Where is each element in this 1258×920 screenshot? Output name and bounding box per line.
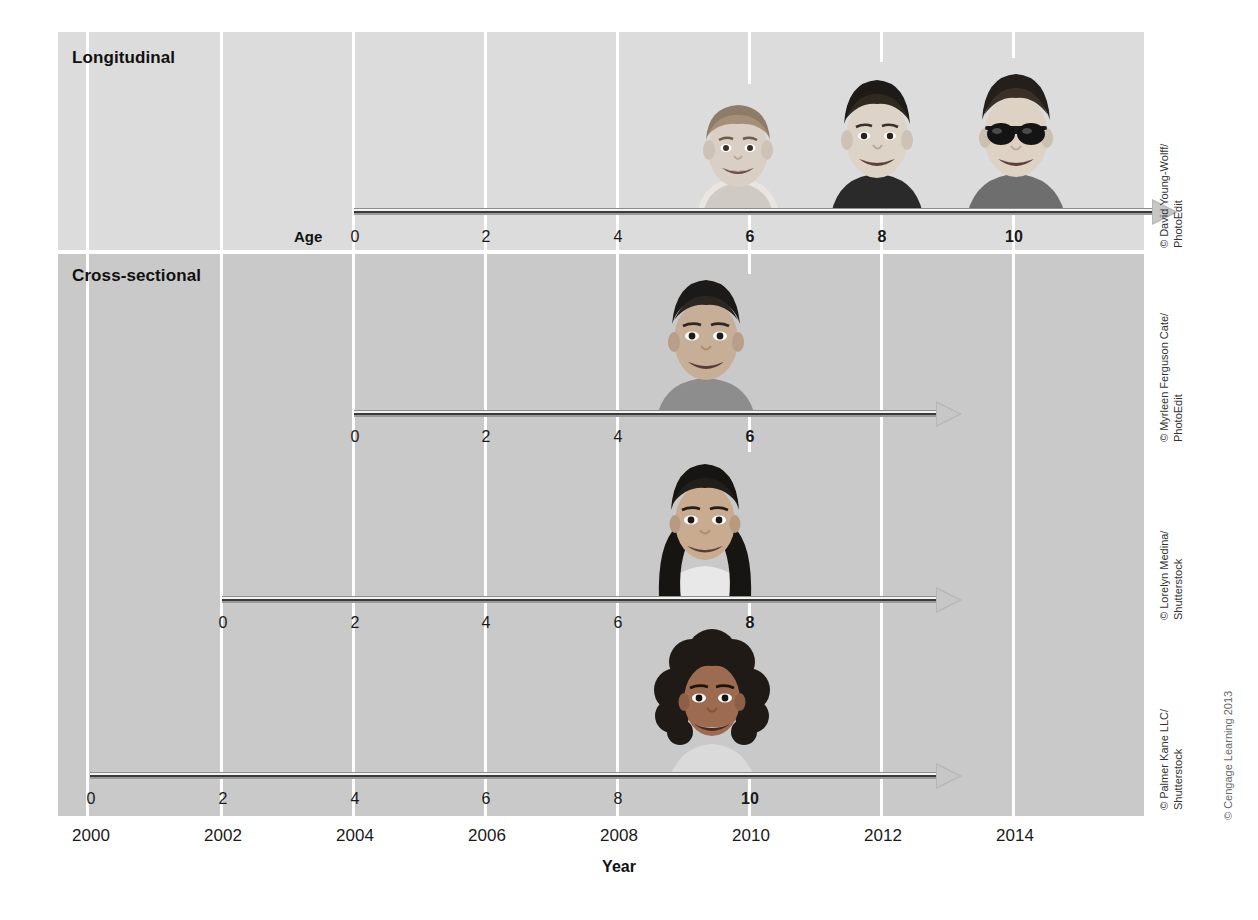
timeline-bar bbox=[354, 208, 1160, 215]
timeline-longitudinal bbox=[354, 204, 1178, 220]
gridline bbox=[1012, 254, 1015, 816]
cohort2002-tick-4: 4 bbox=[482, 614, 491, 632]
panel-longitudinal: Longitudinal bbox=[58, 32, 1146, 250]
cohort2000-tick-0: 0 bbox=[87, 790, 96, 808]
age-tick-4: 4 bbox=[614, 228, 623, 246]
credit-cohort-2002-line2: Shutterstock bbox=[1172, 559, 1185, 620]
cohort2002-tick-6: 6 bbox=[614, 614, 623, 632]
photo-boy-cohort-2004 bbox=[646, 274, 766, 412]
photo-girl-cohort-2000 bbox=[646, 628, 778, 776]
cohort2004-tick-2: 2 bbox=[482, 428, 491, 446]
credit-cohort-2002-line1: © Lorelyn Medina/ bbox=[1158, 531, 1171, 620]
gridline bbox=[616, 254, 619, 816]
timeline-cohort-2000 bbox=[90, 768, 962, 784]
year-tick-2014: 2014 bbox=[996, 826, 1034, 846]
photo-boy-age-8 bbox=[825, 62, 929, 214]
age-tick-6: 6 bbox=[746, 228, 755, 246]
gridline bbox=[1144, 254, 1147, 816]
panel-title-longitudinal: Longitudinal bbox=[72, 48, 175, 68]
cohort2000-tick-8: 8 bbox=[614, 790, 623, 808]
year-tick-2008: 2008 bbox=[600, 826, 638, 846]
timeline-arrowhead bbox=[936, 587, 962, 613]
timeline-bar bbox=[354, 410, 944, 417]
gridline bbox=[880, 254, 883, 816]
year-tick-2006: 2006 bbox=[468, 826, 506, 846]
credit-cohort-2004-line1: © Myrleen Ferguson Cate/ bbox=[1158, 313, 1171, 442]
cohort2004-tick-4: 4 bbox=[614, 428, 623, 446]
year-tick-2010: 2010 bbox=[732, 826, 770, 846]
gridline bbox=[484, 254, 487, 816]
age-tick-2: 2 bbox=[482, 228, 491, 246]
cohort2000-tick-2: 2 bbox=[219, 790, 228, 808]
credit-cohort-2004-line2: PhotoEdit bbox=[1172, 394, 1185, 442]
gridline bbox=[220, 254, 223, 816]
credit-longitudinal-line2: PhotoEdit bbox=[1172, 200, 1185, 248]
age-tick-8: 8 bbox=[878, 228, 887, 246]
timeline-arrowhead bbox=[936, 763, 962, 789]
cohort2002-tick-2: 2 bbox=[351, 614, 360, 632]
axis-name-age: Age bbox=[294, 228, 322, 245]
cohort2000-tick-6: 6 bbox=[482, 790, 491, 808]
timeline-cohort-2004 bbox=[354, 406, 962, 422]
photo-girl-cohort-2002 bbox=[641, 452, 769, 600]
timeline-arrowhead bbox=[936, 401, 962, 427]
cohort2002-tick-0: 0 bbox=[219, 614, 228, 632]
year-tick-2000: 2000 bbox=[72, 826, 110, 846]
figure-longitudinal-vs-cross-sectional: Longitudinal bbox=[0, 0, 1258, 920]
year-tick-2004: 2004 bbox=[336, 826, 374, 846]
gridline bbox=[86, 254, 89, 816]
photo-boy-age-6 bbox=[689, 84, 787, 214]
timeline-bar bbox=[222, 596, 944, 603]
cohort2000-tick-4: 4 bbox=[351, 790, 360, 808]
cohort2004-tick-0: 0 bbox=[351, 428, 360, 446]
year-tick-2002: 2002 bbox=[204, 826, 242, 846]
credit-cohort-2000-line2: Shutterstock bbox=[1172, 749, 1185, 810]
age-tick-10: 10 bbox=[1005, 228, 1023, 246]
timeline-cohort-2002 bbox=[222, 592, 962, 608]
axis-label-year: Year bbox=[602, 858, 636, 876]
credit-cohort-2000-line1: © Palmer Kane LLC/ bbox=[1158, 709, 1171, 810]
gridline bbox=[220, 32, 223, 250]
year-tick-2012: 2012 bbox=[864, 826, 902, 846]
cohort2004-tick-6: 6 bbox=[746, 428, 755, 446]
timeline-bar bbox=[90, 772, 944, 779]
age-tick-0: 0 bbox=[351, 228, 360, 246]
cohort2000-tick-10: 10 bbox=[741, 790, 759, 808]
panel-title-cross-sectional: Cross-sectional bbox=[72, 266, 201, 286]
credit-publisher: © Cengage Learning 2013 bbox=[1222, 691, 1235, 820]
year-axis: 2000 2002 2004 2006 2008 2010 2012 2014 … bbox=[0, 826, 1258, 896]
gridline bbox=[352, 254, 355, 816]
panel-cross-sectional: Cross-sectional bbox=[58, 254, 1146, 816]
credit-longitudinal-line1: © David Young-Wolff/ bbox=[1158, 144, 1171, 248]
photo-boy-age-10 bbox=[961, 58, 1071, 214]
